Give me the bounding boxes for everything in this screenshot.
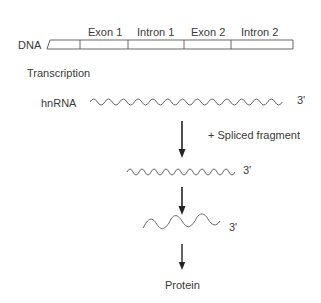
segment-label-exon-1: Exon 1 (88, 27, 122, 38)
dna-bar (47, 40, 293, 49)
mrna-wave-1 (127, 169, 235, 175)
mrna1-3prime-label: 3' (243, 165, 251, 176)
dna-label: DNA (18, 40, 41, 51)
hnrna-wave (90, 99, 282, 105)
mrna2-3prime-label: 3' (229, 222, 237, 233)
segment-label-exon-2: Exon 2 (191, 27, 225, 38)
segment-label-intron-1: Intron 1 (137, 27, 174, 38)
arrow-processing (179, 187, 186, 215)
arrow-splicing (179, 121, 186, 158)
segment-label-intron-2: Intron 2 (241, 27, 278, 38)
transcription-label: Transcription (27, 68, 90, 79)
diagram-graphics (0, 0, 321, 303)
protein-label: Protein (165, 280, 200, 291)
arrow-translation (179, 244, 185, 270)
hnrna-3prime-label: 3' (297, 95, 305, 106)
hnrna-label: hnRNA (41, 98, 76, 109)
mrna-wave-2 (143, 214, 220, 229)
spliced-fragment-label: + Spliced fragment (208, 130, 300, 141)
